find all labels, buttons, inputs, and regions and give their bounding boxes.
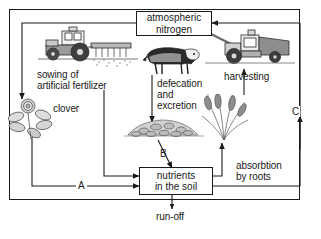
tractor-spreading-fertilizer-icon [36, 26, 140, 68]
label-run-off: run-off [156, 211, 184, 222]
combine-harvester-icon [205, 27, 295, 69]
manure-pile-icon [124, 117, 204, 139]
node-atmospheric-nitrogen-label: atmospheric nitrogen [147, 12, 201, 35]
wheat-plant-icon [196, 94, 252, 144]
node-atmospheric-nitrogen: atmospheric nitrogen [136, 11, 212, 36]
label-clover: clover [53, 103, 79, 114]
key-label-b: B [160, 148, 167, 159]
node-nutrients-in-the-soil-label: nutrients in the soil [155, 170, 197, 193]
node-nutrients-in-the-soil: nutrients in the soil [139, 167, 213, 195]
key-label-a: A [76, 180, 87, 191]
label-sowing-of-artificial-fertilizer: sowing of artificial fertilizer [37, 69, 107, 91]
label-defecation-and-excretion: defecation and excretion [157, 78, 202, 111]
key-label-c: C [291, 106, 300, 117]
diagram-canvas: atmospheric nitrogen nutrients in the so… [0, 0, 321, 239]
label-absorbtion-by-roots: absorbtion by roots [236, 160, 282, 182]
label-harvesting: harvesting [224, 71, 269, 82]
cow-icon [141, 44, 203, 78]
edge-clover-to-nutrients-a [32, 137, 139, 186]
edge-nutrients-to-wheat [213, 143, 222, 176]
